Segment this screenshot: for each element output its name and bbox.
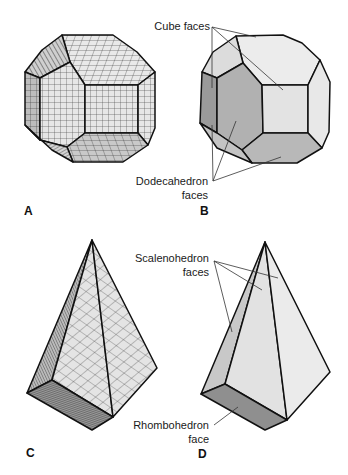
panel-a-gridded-polyhedron — [25, 35, 155, 162]
panel-a-left-face — [25, 72, 40, 140]
panel-a-right-face — [138, 72, 155, 145]
panel-a-front-left-face — [40, 62, 85, 147]
panel-letter-c: C — [26, 446, 35, 460]
panel-a-bottom-face — [67, 133, 148, 162]
figure-canvas: A Cube faces Dodecahedron faces B — [0, 0, 348, 475]
label-dodecahedron-faces: faces — [182, 189, 209, 201]
crystal-habit-figure: A Cube faces Dodecahedron faces B — [0, 0, 348, 475]
label-rhombohedron: Rhombohedron — [133, 419, 209, 431]
panel-d-shaded-scalenohedron — [201, 242, 330, 430]
panel-letter-a: A — [24, 204, 33, 218]
panel-b-front-cube-face — [262, 85, 308, 133]
panel-b-shaded-polyhedron — [200, 35, 330, 163]
label-dodecahedron: Dodecahedron — [136, 175, 208, 187]
label-scalenohedron-faces: faces — [183, 266, 210, 278]
label-cube-faces: Cube faces — [154, 20, 210, 32]
panel-c-gridded-scalenohedron — [27, 240, 157, 430]
label-scalenohedron: Scalenohedron — [135, 252, 209, 264]
label-rhombohedron-face: face — [188, 433, 209, 445]
panel-d-rhombohedron-face-leader — [214, 407, 238, 425]
panel-letter-b: B — [200, 204, 209, 218]
panel-a-cube-face — [85, 85, 138, 133]
panel-letter-d: D — [198, 447, 207, 461]
